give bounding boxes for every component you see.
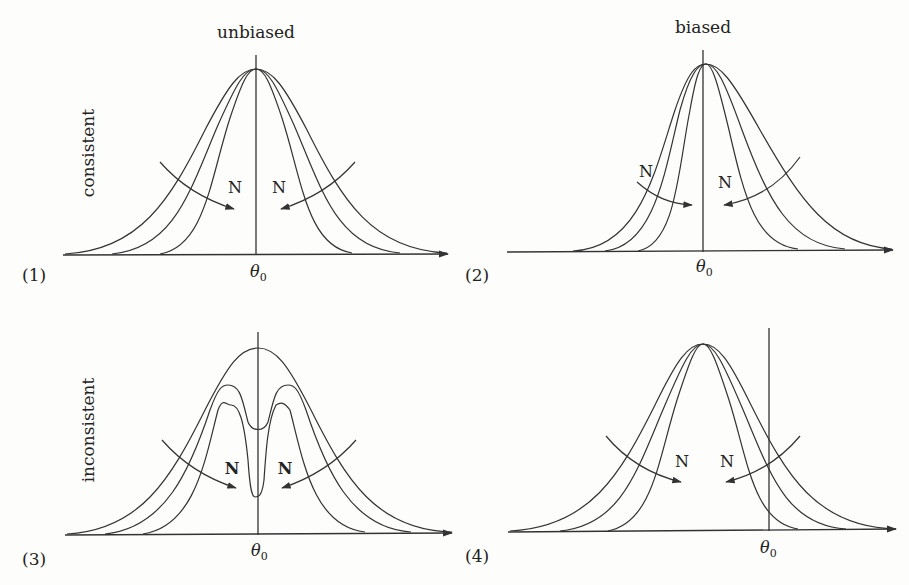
arrow-right-icon <box>726 436 800 482</box>
n-label-right: N <box>720 452 734 471</box>
panel-number: (3) <box>22 549 46 569</box>
curve-narrow <box>638 64 798 251</box>
estimator-diagram: unbiased biased consistent inconsistent … <box>0 0 909 585</box>
row-header-consistent: consistent <box>78 109 98 197</box>
n-label-left: N <box>228 178 242 197</box>
row-header-inconsistent: inconsistent <box>78 378 98 483</box>
arrow-right-icon <box>281 162 355 209</box>
theta0-label: θ0 <box>251 541 268 563</box>
n-label-left: N <box>675 452 689 471</box>
panel-4: N N θ0 (4) <box>465 328 896 566</box>
arrow-right-icon <box>282 440 356 488</box>
panel-number: (4) <box>465 546 489 566</box>
column-header-biased: biased <box>675 17 731 37</box>
curve-wide <box>573 64 892 251</box>
n-label-right: N <box>278 459 293 478</box>
column-header-unbiased: unbiased <box>217 22 295 42</box>
curve-medium <box>605 64 845 251</box>
theta0-label: θ0 <box>760 538 777 560</box>
arrow-left-icon <box>160 162 234 209</box>
curve-dip-deep <box>143 403 365 534</box>
n-label-right: N <box>718 173 732 192</box>
arrow-left-icon <box>606 436 681 482</box>
theta0-label: θ0 <box>696 257 713 279</box>
panel-number: (2) <box>465 265 489 285</box>
panel-number: (1) <box>22 265 46 285</box>
n-label-right: N <box>272 178 286 197</box>
n-label-left: N <box>639 162 653 181</box>
arrow-right-icon <box>724 157 800 205</box>
n-label-left: N <box>225 459 240 478</box>
curve-medium <box>560 344 846 531</box>
x-axis <box>507 250 893 252</box>
curve-top <box>67 348 452 534</box>
curve-wide <box>510 344 896 531</box>
theta0-label: θ0 <box>250 262 267 284</box>
panel-2: N N θ0 (2) <box>465 50 893 285</box>
